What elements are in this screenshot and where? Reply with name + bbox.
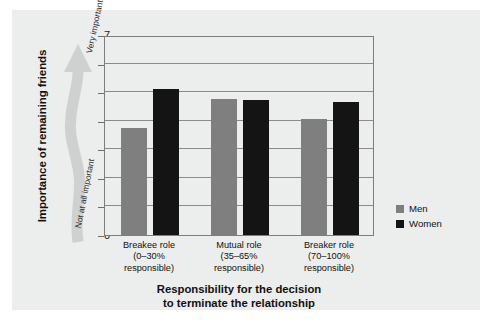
gridline [105,91,373,92]
legend-label: Men [409,203,428,214]
x-category-label-line: responsible) [194,263,284,274]
x-category-label-line: (0–30% [104,251,194,262]
x-category-label-line: Breakee role [104,240,194,251]
x-category-label-line: Breaker role [284,240,374,251]
legend: MenWomen [396,203,442,233]
legend-item-women: Women [396,218,442,229]
x-category-label-line: responsible) [104,263,194,274]
y-tick-mark [98,236,104,237]
bar-women-3 [333,102,359,235]
x-axis-title: Responsibility for the decisionto termin… [104,283,374,310]
legend-swatch-icon [396,220,404,228]
x-category-label-3: Breaker role(70–100%responsible) [284,240,374,274]
x-axis-title-line: to terminate the relationship [104,297,374,311]
gridline [105,63,373,64]
bar-men-1 [121,128,147,235]
bar-men-2 [211,99,237,235]
x-category-label-2: Mutual role(35–65%responsible) [194,240,284,274]
bar-men-3 [301,119,327,235]
chart-figure: Importance of remaining friends Very imp… [0,0,492,329]
bar-women-2 [243,100,269,235]
legend-label: Women [409,218,442,229]
plot-area [104,36,374,236]
y-axis-title: Importance of remaining friends [36,31,48,241]
legend-item-men: Men [396,203,442,214]
x-category-label-line: (35–65% [194,251,284,262]
legend-swatch-icon [396,205,404,213]
x-category-label-1: Breakee role(0–30%responsible) [104,240,194,274]
x-category-label-line: (70–100% [284,251,374,262]
x-category-label-line: responsible) [284,263,374,274]
x-axis-title-line: Responsibility for the decision [104,283,374,297]
bar-women-1 [153,89,179,235]
x-category-label-line: Mutual role [194,240,284,251]
